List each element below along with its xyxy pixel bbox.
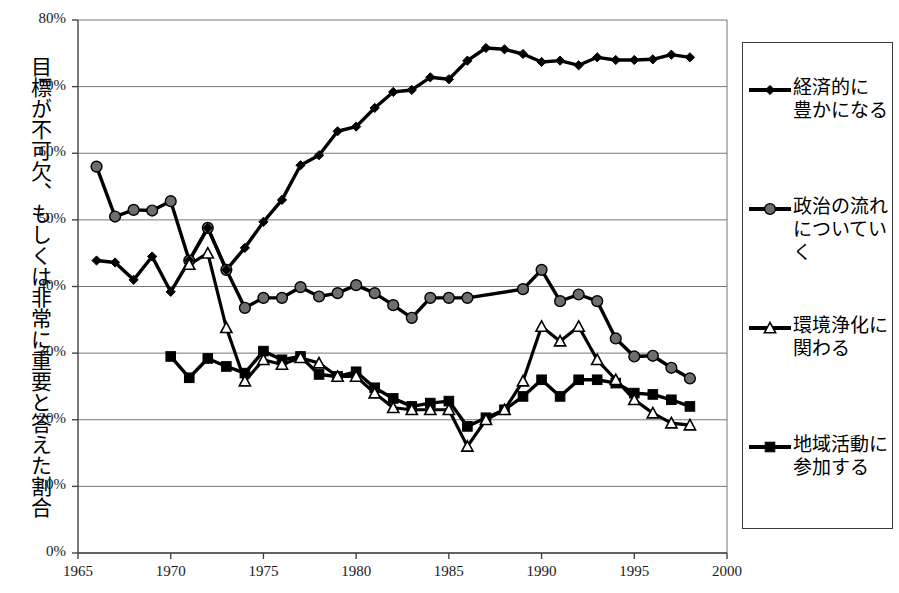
data-point-square <box>648 390 658 400</box>
data-point-circle <box>610 333 621 344</box>
data-point-circle <box>592 296 603 307</box>
data-point-triangle <box>221 322 232 332</box>
legend-item-circle[interactable]: 政治の流れ についていく <box>749 195 892 265</box>
data-point-square <box>166 352 176 362</box>
x-tick-label: 1995 <box>604 563 664 580</box>
y-tick-label: 40% <box>26 277 66 294</box>
series-markers-square <box>166 346 695 431</box>
y-tick-label: 50% <box>26 210 66 227</box>
data-point-square <box>574 375 584 385</box>
data-point-circle <box>295 282 306 293</box>
data-point-square <box>184 373 194 383</box>
y-tick-label: 80% <box>26 10 66 27</box>
chart-legend: 経済的に 豊かになる政治の流れ についていく環境浄化に 関わる地域活動に 参加す… <box>742 42 893 529</box>
legend-label: 経済的に 豊かになる <box>793 76 888 122</box>
x-tick-label: 1985 <box>419 563 479 580</box>
data-point-diamond <box>92 256 101 265</box>
data-point-circle <box>128 204 139 215</box>
data-point-square <box>222 362 232 372</box>
data-point-diamond <box>556 56 565 65</box>
y-tick-label: 10% <box>26 476 66 493</box>
data-point-circle <box>685 373 696 384</box>
data-point-square <box>685 402 695 412</box>
data-point-diamond <box>667 50 676 59</box>
data-point-diamond <box>685 53 694 62</box>
x-tick-label: 1990 <box>512 563 572 580</box>
data-point-diamond <box>630 55 639 64</box>
data-point-triangle <box>536 321 547 331</box>
data-point-circle <box>425 292 436 303</box>
data-point-square <box>463 422 473 432</box>
y-tick-label: 0% <box>26 543 66 560</box>
series-diamond <box>97 48 690 292</box>
x-tick-label: 1965 <box>48 563 108 580</box>
x-tick-label: 1970 <box>141 563 201 580</box>
legend-item-diamond[interactable]: 経済的に 豊かになる <box>749 76 888 122</box>
data-point-circle <box>258 292 269 303</box>
y-tick-label: 20% <box>26 410 66 427</box>
data-point-square <box>537 375 547 385</box>
data-point-circle <box>647 350 658 361</box>
data-point-circle <box>91 161 102 172</box>
legend-marker-diamond-icon <box>749 81 791 99</box>
data-point-square <box>203 354 213 364</box>
series-line <box>97 167 690 379</box>
y-tick-label: 70% <box>26 77 66 94</box>
legend-item-triangle[interactable]: 環境浄化に 関わる <box>749 314 888 360</box>
data-point-circle <box>536 264 547 275</box>
data-point-square <box>592 375 602 385</box>
data-point-circle <box>462 292 473 303</box>
legend-label: 政治の流れ についていく <box>793 195 892 265</box>
x-tick-label: 1975 <box>233 563 293 580</box>
data-point-circle <box>518 284 529 295</box>
x-tick-label: 1980 <box>326 563 386 580</box>
data-point-circle <box>351 280 362 291</box>
data-point-diamond <box>500 45 509 54</box>
chart-page: 目標が不可欠、もしくは非常に重要と答えた割合 0%10%20%30%40%50%… <box>0 0 899 593</box>
data-point-circle <box>388 300 399 311</box>
data-point-circle <box>110 211 121 222</box>
legend-item-square[interactable]: 地域活動に 参加する <box>749 433 888 479</box>
data-point-circle <box>555 296 566 307</box>
data-point-circle <box>573 289 584 300</box>
data-point-square <box>314 370 324 380</box>
legend-label: 地域活動に 参加する <box>793 433 888 479</box>
data-point-circle <box>629 351 640 362</box>
data-point-diamond <box>765 85 774 94</box>
data-point-square <box>667 395 677 405</box>
data-point-circle <box>239 302 250 313</box>
x-tick-label: 2000 <box>697 563 757 580</box>
data-point-circle <box>369 288 380 299</box>
legend-marker-square-icon <box>749 438 791 456</box>
data-point-triangle <box>517 376 528 386</box>
y-tick-label: 30% <box>26 343 66 360</box>
data-point-circle <box>443 292 454 303</box>
legend-label: 環境浄化に 関わる <box>793 314 888 360</box>
data-point-diamond <box>648 55 657 64</box>
data-point-circle <box>765 204 776 215</box>
data-point-triangle <box>202 248 213 258</box>
series-circle <box>97 167 690 379</box>
y-tick-label: 60% <box>26 143 66 160</box>
data-point-square <box>518 392 528 402</box>
data-point-circle <box>165 196 176 207</box>
data-point-circle <box>314 291 325 302</box>
data-point-diamond <box>611 55 620 64</box>
data-point-circle <box>406 312 417 323</box>
data-point-circle <box>666 362 677 373</box>
legend-marker-triangle-icon <box>749 319 791 337</box>
data-point-circle <box>332 288 343 299</box>
series-line <box>97 48 690 292</box>
series-markers-diamond <box>92 43 695 296</box>
data-point-square <box>555 392 565 402</box>
data-point-triangle <box>573 321 584 331</box>
data-point-square <box>765 442 775 452</box>
data-point-circle <box>147 205 158 216</box>
legend-marker-circle-icon <box>749 200 791 218</box>
data-point-triangle <box>764 322 775 332</box>
data-point-circle <box>277 292 288 303</box>
